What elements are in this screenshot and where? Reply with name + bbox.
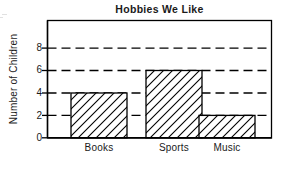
bar-sports [146, 71, 202, 138]
y-tick-marks [42, 48, 48, 138]
bar-books [71, 93, 127, 138]
bar-chart-figure: Hobbies We Like Number of Children 8 6 4… [0, 0, 289, 170]
x-tick-label-music: Music [199, 142, 255, 154]
x-tick-label-sports: Sports [146, 142, 202, 154]
x-tick-label-books: Books [71, 142, 127, 154]
bar-music [199, 115, 255, 137]
